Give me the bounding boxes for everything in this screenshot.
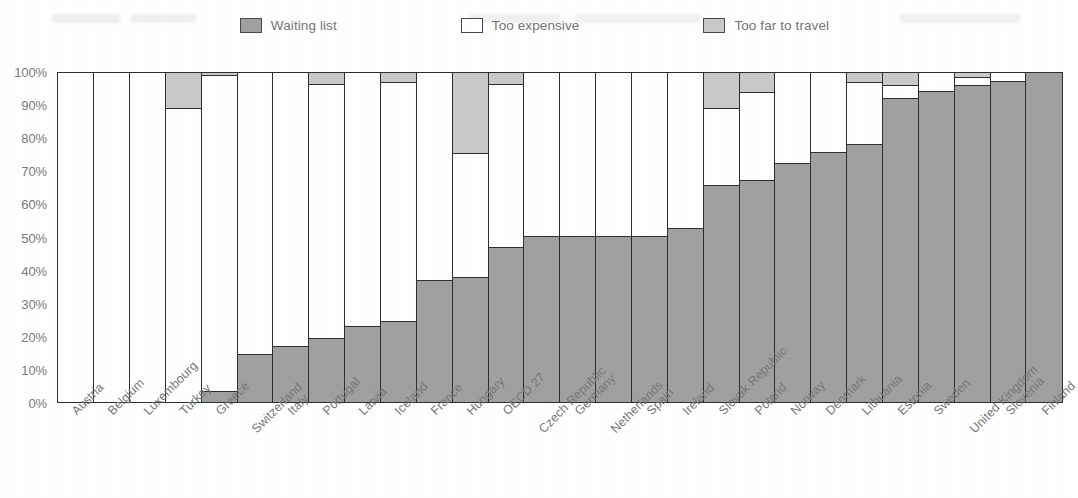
bar-segment-too-expensive [704, 109, 739, 185]
bar-greece[interactable] [201, 73, 238, 402]
bar-netherlands[interactable] [595, 73, 632, 402]
y-tick-label: 50% [21, 230, 47, 245]
legend-swatch-waiting-list [240, 18, 262, 33]
y-tick-label: 100% [14, 65, 47, 80]
bar-segment-waiting-list [919, 91, 954, 402]
bar-france[interactable] [416, 73, 453, 402]
bar-belgium[interactable] [93, 73, 130, 402]
bar-segment-too-expensive [453, 154, 488, 277]
bar-ireland[interactable] [667, 73, 704, 402]
bar-segment-waiting-list [991, 81, 1026, 402]
bar-segment-too-expensive [417, 73, 452, 280]
y-tick-label: 60% [21, 197, 47, 212]
bar-segment-too-expensive [883, 86, 918, 98]
bar-segment-too-expensive [919, 73, 954, 91]
bar-segment-too-expensive [955, 78, 990, 85]
bar-segment-waiting-list [847, 144, 882, 402]
bar-segment-too-expensive [560, 73, 595, 236]
bar-segment-too-expensive [740, 93, 775, 180]
bar-segment-too-far-to-travel [381, 73, 416, 83]
legend-label-waiting-list: Waiting list [271, 18, 337, 33]
bar-segment-too-far-to-travel [166, 73, 201, 109]
bar-segment-too-expensive [238, 73, 273, 354]
bar-segment-too-expensive [847, 83, 882, 144]
legend-item-too-far-to-travel: Too far to travel [703, 18, 829, 33]
legend-item-waiting-list: Waiting list [240, 18, 337, 33]
bar-segment-waiting-list [955, 85, 990, 402]
bar-austria[interactable] [57, 73, 94, 402]
bar-luxembourg[interactable] [129, 73, 166, 402]
legend-swatch-too-expensive [461, 18, 483, 33]
bar-segment-too-far-to-travel [453, 73, 488, 154]
bar-segment-too-expensive [489, 85, 524, 248]
chart-legend: Waiting list Too expensive Too far to tr… [0, 12, 1069, 38]
legend-label-too-far-to-travel: Too far to travel [734, 18, 829, 33]
bar-estonia[interactable] [882, 73, 919, 402]
bar-segment-too-far-to-travel [740, 73, 775, 93]
y-tick-label: 90% [21, 98, 47, 113]
bar-portugal[interactable] [308, 73, 345, 402]
bar-segment-too-expensive [94, 73, 129, 402]
y-tick-label: 10% [21, 362, 47, 377]
bar-spain[interactable] [631, 73, 668, 402]
bar-segment-waiting-list [883, 98, 918, 402]
bar-switzerland[interactable] [237, 73, 274, 402]
bar-segment-too-far-to-travel [489, 73, 524, 85]
bar-oecd-27[interactable] [488, 73, 525, 402]
bar-segment-too-expensive [524, 73, 559, 236]
bar-segment-too-expensive [309, 85, 344, 338]
x-axis: AustriaBelgiumLuxembourgTurkeyGreeceSwit… [57, 406, 1063, 498]
bar-segment-too-far-to-travel [847, 73, 882, 83]
bar-segment-waiting-list [632, 236, 667, 402]
y-tick-label: 20% [21, 329, 47, 344]
bar-segment-too-far-to-travel [309, 73, 344, 85]
bar-segment-too-expensive [775, 73, 810, 163]
bar-denmark[interactable] [810, 73, 847, 402]
bar-czech-republic[interactable] [523, 73, 560, 402]
bar-segment-too-expensive [991, 73, 1026, 81]
bar-segment-too-expensive [632, 73, 667, 236]
bar-segment-too-expensive [273, 73, 308, 346]
y-tick-label: 80% [21, 131, 47, 146]
bar-united-kingdom[interactable] [954, 73, 991, 402]
bar-segment-waiting-list [704, 185, 739, 402]
bar-hungary[interactable] [452, 73, 489, 402]
bar-sweden[interactable] [918, 73, 955, 402]
y-tick-label: 40% [21, 263, 47, 278]
bar-finland[interactable] [1025, 73, 1062, 402]
legend-label-too-expensive: Too expensive [492, 18, 580, 33]
bar-segment-too-expensive [58, 73, 93, 402]
bar-segment-too-expensive [166, 109, 201, 402]
bar-segment-too-expensive [345, 73, 380, 326]
bar-segment-waiting-list [811, 152, 846, 402]
bar-slovak-republic[interactable] [703, 73, 740, 402]
bar-segment-too-expensive [668, 73, 703, 228]
y-axis: 0%10%20%30%40%50%60%70%80%90%100% [0, 68, 52, 408]
bar-lithuania[interactable] [846, 73, 883, 402]
bar-segment-waiting-list [775, 163, 810, 402]
bar-segment-too-expensive [130, 73, 165, 402]
bar-segment-waiting-list [1026, 73, 1061, 402]
bar-latvia[interactable] [344, 73, 381, 402]
bar-segment-too-expensive [596, 73, 631, 236]
bar-segment-too-far-to-travel [704, 73, 739, 109]
bar-segment-too-far-to-travel [883, 73, 918, 86]
bar-turkey[interactable] [165, 73, 202, 402]
bar-segment-waiting-list [668, 228, 703, 402]
bar-germany[interactable] [559, 73, 596, 402]
legend-swatch-too-far-to-travel [703, 18, 725, 33]
y-tick-label: 30% [21, 296, 47, 311]
bar-segment-too-expensive [202, 76, 237, 390]
y-tick-label: 70% [21, 164, 47, 179]
plot-area [57, 72, 1063, 403]
bar-iceland[interactable] [380, 73, 417, 402]
y-tick-label: 0% [28, 396, 47, 411]
bar-italy[interactable] [272, 73, 309, 402]
bar-segment-too-expensive [811, 73, 846, 152]
legend-item-too-expensive: Too expensive [461, 18, 580, 33]
bar-slovenia[interactable] [990, 73, 1027, 402]
bar-segment-too-expensive [381, 83, 416, 322]
